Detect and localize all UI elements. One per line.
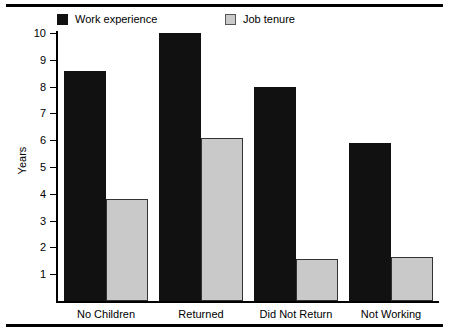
- bottom-divider-rule: [6, 324, 443, 327]
- y-axis-tick-label: 10: [6, 28, 46, 39]
- bar-chart-figure: Work experience Job tenure Years 1234567…: [0, 0, 449, 330]
- y-axis-tick-label-wrap: 5: [0, 167, 46, 168]
- bar-work-experience: [254, 87, 296, 301]
- y-axis-tick: [50, 113, 57, 114]
- bar-job-tenure: [296, 259, 338, 301]
- y-axis-tick-label-wrap: 9: [0, 60, 46, 61]
- legend-label-work-experience: Work experience: [75, 14, 157, 25]
- y-axis-tick: [50, 60, 57, 61]
- y-axis-tick: [50, 167, 57, 168]
- top-divider-rule: [6, 4, 443, 7]
- legend-item-job-tenure: Job tenure: [225, 11, 295, 27]
- y-axis-tick: [50, 87, 57, 88]
- y-axis-tick-label: 3: [6, 216, 46, 227]
- y-axis-tick-label: 1: [6, 269, 46, 280]
- legend-swatch-job-tenure: [225, 14, 236, 25]
- y-axis-tick: [50, 247, 57, 248]
- legend-swatch-work-experience: [57, 14, 68, 25]
- bar-work-experience: [64, 71, 106, 301]
- y-axis-tick-label-wrap: 10: [0, 33, 46, 34]
- y-axis-tick-label-wrap: 6: [0, 140, 46, 141]
- y-axis-tick-label: 6: [6, 135, 46, 146]
- y-axis-tick: [50, 140, 57, 141]
- x-axis-line: [56, 301, 439, 303]
- bar-work-experience: [349, 143, 391, 301]
- chart-legend: Work experience Job tenure: [0, 11, 449, 27]
- y-axis-tick-label-wrap: 3: [0, 221, 46, 222]
- legend-label-job-tenure: Job tenure: [243, 14, 295, 25]
- bar-work-experience: [159, 33, 201, 301]
- y-axis-tick-label: 7: [6, 108, 46, 119]
- y-axis-tick-label-wrap: 2: [0, 247, 46, 248]
- y-axis-tick: [50, 33, 57, 34]
- y-axis-tick-label: 4: [6, 189, 46, 200]
- bar-job-tenure: [201, 138, 243, 301]
- y-axis-tick: [50, 221, 57, 222]
- y-axis-tick-label: 5: [6, 162, 46, 173]
- x-axis-category-label: Not Working: [331, 308, 449, 320]
- y-axis-tick-label-wrap: 4: [0, 194, 46, 195]
- y-axis-tick-label-wrap: 7: [0, 113, 46, 114]
- bar-job-tenure: [391, 257, 433, 301]
- legend-item-work-experience: Work experience: [57, 11, 157, 27]
- y-axis-tick-label: 9: [6, 55, 46, 66]
- y-axis-tick: [50, 274, 57, 275]
- y-axis-tick-label: 2: [6, 242, 46, 253]
- y-axis-tick: [50, 194, 57, 195]
- y-axis-tick-label-wrap: 1: [0, 274, 46, 275]
- y-axis-tick-label-wrap: 8: [0, 87, 46, 88]
- bar-job-tenure: [106, 199, 148, 301]
- y-axis-tick-label: 8: [6, 82, 46, 93]
- plot-area: [58, 33, 437, 301]
